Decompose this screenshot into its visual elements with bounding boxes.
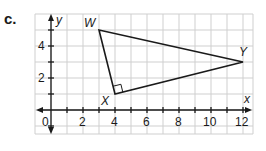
x-tick-label: 6 xyxy=(143,115,150,129)
origin-label: 0 xyxy=(42,115,49,129)
x-tick-label: 12 xyxy=(235,115,249,129)
vertex-label-w: W xyxy=(84,16,97,30)
x-tick-label: 8 xyxy=(175,115,182,129)
coordinate-plane: y x 0 2 4 6 8 10 12 2 4 W X Y xyxy=(0,0,266,151)
vertex-label-y: Y xyxy=(239,45,248,59)
y-tick-label: 2 xyxy=(38,71,45,85)
y-tick-label: 4 xyxy=(38,39,45,53)
vertex-label-x: X xyxy=(100,94,110,108)
x-tick-label: 2 xyxy=(79,115,86,129)
y-axis-label: y xyxy=(55,13,63,27)
y-axis xyxy=(48,14,54,134)
x-tick-label: 10 xyxy=(203,115,217,129)
x-axis xyxy=(36,107,252,113)
x-tick-label: 4 xyxy=(111,115,118,129)
x-axis-label: x xyxy=(243,92,251,106)
